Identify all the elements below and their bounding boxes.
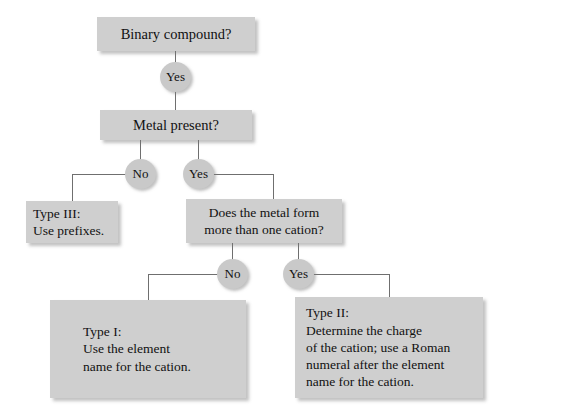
edge-label-yes-binary-text: Yes [166, 69, 185, 85]
node-metal-present[interactable]: Metal present? [100, 110, 252, 140]
node-type-i[interactable]: Type I: Use the element name for the cat… [50, 300, 246, 398]
connector-metal-to-yes2 [198, 140, 199, 160]
edge-label-no-metal[interactable]: No [125, 159, 156, 189]
node-type-iii[interactable]: Type III: Use prefixes. [26, 201, 118, 243]
node-type-ii[interactable]: Type II: Determine the charge of the cat… [295, 297, 483, 398]
connector-yes3-vertical [389, 274, 390, 298]
node-more-than-one-cation[interactable]: Does the metal form more than one cation… [186, 199, 342, 243]
node-type-iii-label: Type III: Use prefixes. [33, 205, 118, 240]
connector-no2-horizontal [72, 174, 127, 175]
flowchart-canvas: Binary compound? Yes Metal present? No Y… [0, 0, 565, 420]
edge-label-yes-cation[interactable]: Yes [283, 259, 314, 289]
connector-no3-vertical [148, 274, 149, 301]
connector-yes2-horizontal [212, 174, 274, 175]
node-type-i-label: Type I: Use the element name for the cat… [83, 323, 246, 375]
node-binary-compound[interactable]: Binary compound? [97, 17, 255, 51]
node-more-than-one-cation-label: Does the metal form more than one cation… [204, 204, 324, 239]
edge-label-yes-binary[interactable]: Yes [160, 62, 191, 92]
edge-label-yes-cation-text: Yes [289, 266, 308, 282]
edge-label-yes-metal-text: Yes [189, 166, 208, 182]
edge-label-no-metal-text: No [133, 166, 149, 182]
connector-yes2-vertical [273, 174, 274, 200]
connector-no2-vertical [72, 174, 73, 202]
edge-label-yes-metal[interactable]: Yes [183, 159, 214, 189]
edge-label-no-cation[interactable]: No [217, 259, 248, 289]
connector-metal-to-no2 [140, 140, 141, 160]
node-type-ii-label: Type II: Determine the charge of the cat… [306, 304, 483, 390]
edge-label-no-cation-text: No [225, 266, 241, 282]
node-binary-compound-label: Binary compound? [121, 25, 232, 44]
connector-yes3-horizontal [312, 274, 390, 275]
connector-yes1-to-metal [175, 91, 176, 111]
connector-no3-horizontal [148, 274, 219, 275]
node-metal-present-label: Metal present? [133, 116, 219, 135]
